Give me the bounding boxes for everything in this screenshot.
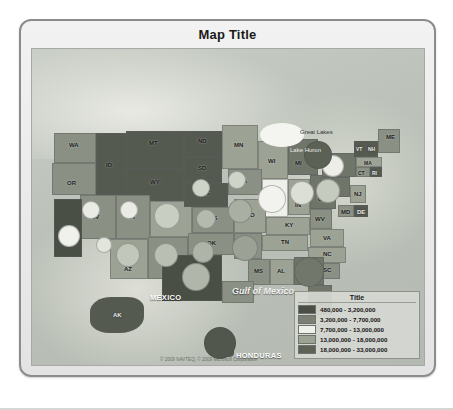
legend-row[interactable]: 3,200,000 - 7,700,000 xyxy=(298,315,416,324)
state-label: AL xyxy=(277,268,285,274)
state-label: WI xyxy=(268,158,275,164)
legend-swatch xyxy=(298,345,316,354)
state-MT[interactable]: MT xyxy=(126,131,184,169)
state-label: WY xyxy=(150,179,160,185)
state-label: ID xyxy=(106,162,112,168)
state-TN[interactable]: TN xyxy=(262,235,308,251)
state-label: OR xyxy=(67,180,76,186)
legend-label: 18,000,000 - 33,000,000 xyxy=(320,346,387,353)
lake-huron-label: Lake Huron xyxy=(290,147,321,153)
map-chart-frame: Map Title WA OR ID MT ND SD MN xyxy=(19,19,436,377)
great-lakes-label: Great Lakes xyxy=(300,129,333,135)
gulf-of-mexico-label: Gulf of Mexico xyxy=(232,286,294,296)
legend-label: 7,700,000 - 13,000,000 xyxy=(320,326,384,333)
state-label: WV xyxy=(315,216,325,222)
state-label: DE xyxy=(357,209,365,215)
bubble-marker[interactable] xyxy=(294,257,324,287)
bubble-marker[interactable] xyxy=(82,201,100,219)
bubble-marker[interactable] xyxy=(204,327,236,359)
legend-row[interactable]: 18,000,000 - 33,000,000 xyxy=(298,345,416,354)
legend-row[interactable]: 480,000 - 3,200,000 xyxy=(298,305,416,314)
state-label: RI xyxy=(372,170,377,176)
state-CT[interactable]: CT xyxy=(356,167,370,177)
legend-title: Title xyxy=(298,294,416,303)
map-canvas[interactable]: WA OR ID MT ND SD MN WI MI WY NV xyxy=(31,48,425,366)
state-ND[interactable]: ND xyxy=(184,131,222,157)
state-label: VA xyxy=(323,235,331,241)
state-label: CT xyxy=(358,170,365,176)
legend-swatch xyxy=(298,335,316,344)
state-label: SC xyxy=(323,267,331,273)
mexico-label: MEXICO xyxy=(150,293,181,302)
state-label: WA xyxy=(69,142,79,148)
state-label: NH xyxy=(368,146,375,152)
state-label: NC xyxy=(323,251,332,257)
state-MA[interactable]: MA xyxy=(356,157,382,167)
state-MN[interactable]: MN xyxy=(222,125,258,169)
state-label: NJ xyxy=(354,191,362,197)
bubble-marker[interactable] xyxy=(196,209,216,229)
state-NH[interactable]: NH xyxy=(366,141,378,157)
bubble-marker[interactable] xyxy=(316,179,340,203)
bubble-marker[interactable] xyxy=(154,203,180,229)
state-DE[interactable]: DE xyxy=(354,205,368,217)
legend-row[interactable]: 13,000,000 - 18,000,000 xyxy=(298,335,416,344)
map-attribution: © 2009 NAVTEQ, © 2009 Microsoft Corporat… xyxy=(160,357,257,362)
state-OR[interactable]: OR xyxy=(52,163,96,195)
legend-swatch xyxy=(298,305,316,314)
state-AL[interactable]: AL xyxy=(270,259,294,285)
bubble-marker[interactable] xyxy=(182,263,210,291)
bubble-marker[interactable] xyxy=(116,243,140,267)
legend-label: 480,000 - 3,200,000 xyxy=(320,306,375,313)
state-label: MT xyxy=(149,140,158,146)
state-label: MN xyxy=(234,142,243,148)
state-WA[interactable]: WA xyxy=(54,133,96,163)
legend-swatch xyxy=(298,315,316,324)
state-label: MA xyxy=(364,160,372,166)
state-label: ND xyxy=(198,138,207,144)
state-label: ME xyxy=(386,134,395,140)
state-AK[interactable]: AK xyxy=(90,297,144,333)
state-VA[interactable]: VA xyxy=(310,229,344,247)
state-WV[interactable]: WV xyxy=(310,209,332,229)
state-label: SD xyxy=(198,165,206,171)
state-label: AK xyxy=(113,312,122,318)
bubble-marker[interactable] xyxy=(232,235,258,261)
bubble-marker[interactable] xyxy=(154,243,178,267)
state-NJ[interactable]: NJ xyxy=(350,185,366,203)
legend-row[interactable]: 7,700,000 - 13,000,000 xyxy=(298,325,416,334)
bubble-marker[interactable] xyxy=(258,185,286,213)
state-label: MI xyxy=(295,160,302,166)
state-MD[interactable]: MD xyxy=(338,205,354,217)
state-VT[interactable]: VT xyxy=(354,141,366,157)
state-label: MD xyxy=(341,209,350,215)
page-title: Map Title xyxy=(21,27,434,42)
bubble-marker[interactable] xyxy=(228,199,252,223)
state-label: KY xyxy=(285,222,293,228)
legend-swatch xyxy=(298,325,316,334)
state-label: MS xyxy=(254,268,263,274)
legend-label: 13,000,000 - 18,000,000 xyxy=(320,336,387,343)
state-label: VT xyxy=(356,146,362,152)
bubble-marker[interactable] xyxy=(290,181,314,205)
map-legend[interactable]: Title 480,000 - 3,200,000 3,200,000 - 7,… xyxy=(294,291,420,359)
bubble-marker[interactable] xyxy=(58,225,80,247)
state-ME[interactable]: ME xyxy=(378,129,400,153)
bubble-marker[interactable] xyxy=(228,171,246,189)
state-label: TN xyxy=(281,239,289,245)
bubble-marker[interactable] xyxy=(192,179,210,197)
state-RI[interactable]: RI xyxy=(370,167,382,177)
bubble-marker[interactable] xyxy=(304,141,332,169)
legend-label: 3,200,000 - 7,700,000 xyxy=(320,316,381,323)
bubble-marker[interactable] xyxy=(192,241,214,263)
state-ID[interactable]: ID xyxy=(96,133,126,195)
bubble-marker[interactable] xyxy=(120,201,138,219)
great-lakes-water xyxy=(260,123,304,147)
state-KY[interactable]: KY xyxy=(266,217,310,235)
bubble-marker[interactable] xyxy=(96,237,112,253)
screenshot-root: Map Title WA OR ID MT ND SD MN xyxy=(0,0,453,410)
